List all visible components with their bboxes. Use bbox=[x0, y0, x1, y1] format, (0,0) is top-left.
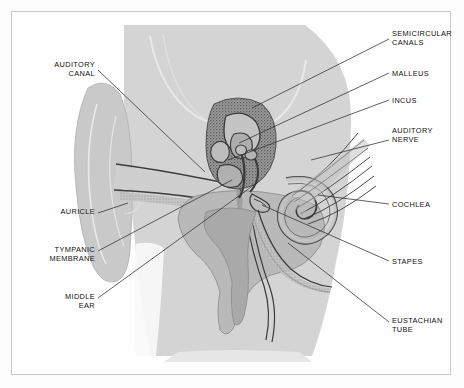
lower-head-light bbox=[164, 350, 312, 362]
label-malleus: MALLEUS bbox=[392, 69, 429, 78]
label-cochlea: COCHLEA bbox=[392, 200, 430, 209]
label-tympanic-membrane: TYMPANIC MEMBRANE bbox=[49, 245, 95, 264]
label-auditory-nerve: AUDITORY NERVE bbox=[392, 126, 433, 145]
label-semicircular-canals: SEMICIRCULAR CANALS bbox=[392, 29, 452, 48]
semicircular-canal-lateral bbox=[211, 141, 230, 162]
label-auditory-canal: AUDITORY CANAL bbox=[54, 60, 95, 79]
label-middle-ear: MIDDLE EAR bbox=[65, 292, 95, 311]
label-stapes: STAPES bbox=[392, 257, 423, 266]
ear-anatomy-diagram: AUDITORY CANAL AURICLE TYMPANIC MEMBRANE… bbox=[0, 0, 464, 388]
label-eustachian-tube: EUSTACHIAN TUBE bbox=[392, 316, 443, 335]
label-auricle: AURICLE bbox=[61, 207, 96, 216]
label-incus: INCUS bbox=[392, 96, 417, 105]
